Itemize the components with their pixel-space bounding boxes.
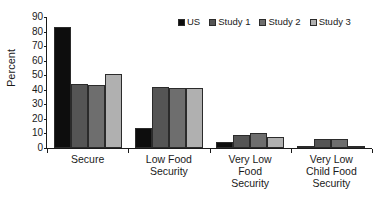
- bar-chart: Percent 0102030405060708090 SecureLow Fo…: [0, 0, 376, 198]
- y-axis-tick-label: 70: [22, 41, 43, 51]
- x-axis-tick-mark: [291, 149, 292, 153]
- bar: [169, 88, 186, 148]
- y-axis-tick-labels: 0102030405060708090: [22, 0, 43, 198]
- y-axis-tick-label: 0: [22, 143, 43, 153]
- bar: [135, 128, 152, 148]
- x-axis-category-label-line: Security: [210, 177, 291, 189]
- y-axis-tick-label: 90: [22, 12, 43, 22]
- x-axis-category-label: Very LowChild FoodSecurity: [291, 153, 372, 189]
- x-axis-tick-mark: [210, 149, 211, 153]
- y-axis-tick-label: 80: [22, 27, 43, 37]
- bar: [71, 84, 88, 148]
- y-axis-tick-label: 10: [22, 128, 43, 138]
- bar: [331, 139, 348, 148]
- legend-item: Study 2: [259, 17, 300, 27]
- x-axis-category-label-line: Security: [128, 165, 209, 177]
- y-axis-tick-mark: [44, 104, 47, 105]
- x-axis-category-label-line: Food: [210, 165, 291, 177]
- x-axis-category-labels: SecureLow FoodSecurityVery LowFoodSecuri…: [47, 153, 372, 198]
- bar: [348, 146, 365, 148]
- x-axis-tick-mark: [372, 149, 373, 153]
- legend-item: Study 1: [209, 17, 250, 27]
- x-axis-category-label: Secure: [47, 153, 128, 165]
- x-axis-category-label: Low FoodSecurity: [128, 153, 209, 177]
- legend-item: US: [178, 17, 200, 27]
- bar: [88, 85, 105, 148]
- y-axis-tick-label: 50: [22, 70, 43, 80]
- bar: [297, 146, 314, 148]
- x-axis-tick-mark: [47, 149, 48, 153]
- y-axis-tick-label: 40: [22, 85, 43, 95]
- x-axis-tick-mark: [128, 149, 129, 153]
- y-axis-title: Percent: [5, 28, 17, 108]
- y-axis-tick-label: 30: [22, 99, 43, 109]
- bar: [186, 88, 203, 148]
- y-axis-tick-mark: [44, 90, 47, 91]
- y-axis-tick-mark: [44, 17, 47, 18]
- plot-area: [47, 17, 372, 148]
- y-axis-tick-mark: [44, 119, 47, 120]
- bar: [233, 135, 250, 148]
- x-axis-category-label-line: Very Low: [291, 153, 372, 165]
- y-axis-tick-label: 20: [22, 114, 43, 124]
- chart-legend: USStudy 1Study 2Study 3: [178, 17, 351, 27]
- legend-swatch-icon: [259, 19, 266, 26]
- x-axis-category-label-line: Low Food: [128, 153, 209, 165]
- legend-swatch-icon: [310, 19, 317, 26]
- legend-label: Study 3: [319, 17, 351, 27]
- x-axis-category-label-line: Child Food: [291, 165, 372, 177]
- legend-swatch-icon: [209, 19, 216, 26]
- y-axis-tick-mark: [44, 133, 47, 134]
- x-axis-category-label-line: Very Low: [210, 153, 291, 165]
- legend-swatch-icon: [178, 19, 185, 26]
- x-axis-category-label: Very LowFoodSecurity: [210, 153, 291, 189]
- y-axis-tick-label: 60: [22, 56, 43, 66]
- y-axis-tick-mark: [44, 75, 47, 76]
- bar: [314, 139, 331, 148]
- legend-item: Study 3: [310, 17, 351, 27]
- bar: [105, 74, 122, 148]
- bar: [152, 87, 169, 148]
- y-axis-tick-mark: [44, 61, 47, 62]
- bar: [250, 133, 267, 148]
- x-axis-category-label-line: Security: [291, 177, 372, 189]
- legend-label: Study 2: [268, 17, 300, 27]
- bar: [267, 137, 284, 148]
- bar: [216, 142, 233, 148]
- legend-label: Study 1: [218, 17, 250, 27]
- legend-label: US: [187, 17, 200, 27]
- y-axis-tick-mark: [44, 46, 47, 47]
- bar: [54, 27, 71, 148]
- y-axis-tick-mark: [44, 32, 47, 33]
- x-axis-category-label-line: Secure: [47, 153, 128, 165]
